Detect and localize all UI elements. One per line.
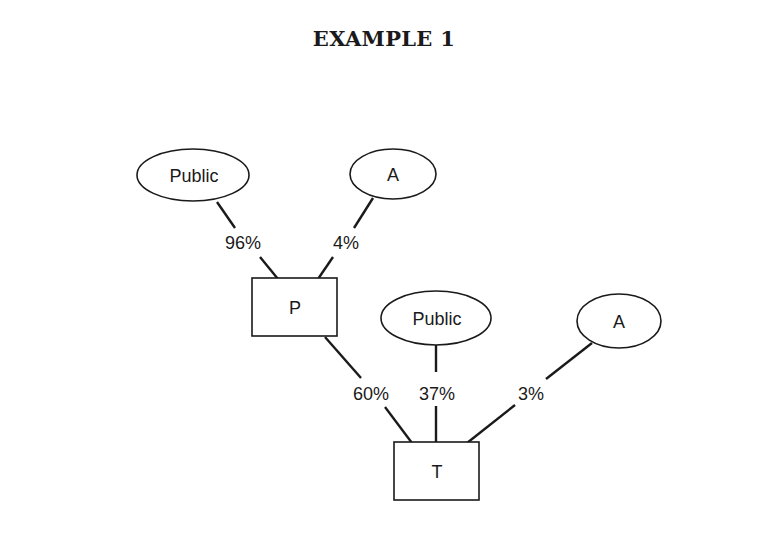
node-label: T (432, 462, 443, 482)
edge-label-4: 4% (333, 233, 359, 253)
node-label: Public (169, 166, 218, 186)
edge-a-bottom-to-t: 3% (467, 343, 592, 443)
edge-a-top-to-p: 4% (318, 198, 373, 279)
node-p: P (252, 278, 337, 336)
node-public-bottom: Public (381, 291, 491, 345)
node-label: P (289, 298, 301, 318)
edge-label-96: 96% (225, 233, 261, 253)
edge-p-to-t: 60% (325, 337, 412, 443)
edge-public-top-to-p: 96% (217, 202, 278, 279)
node-a-bottom: A (577, 294, 661, 348)
node-t: T (394, 442, 479, 500)
node-label: Public (412, 309, 461, 329)
ownership-diagram: 96% 4% 60% 37% 3% Public A P Pub (0, 0, 768, 537)
edge-public-bottom-to-t: 37% (419, 345, 455, 443)
node-a-top: A (350, 149, 436, 199)
edge-label-37: 37% (419, 384, 455, 404)
edge-label-3: 3% (518, 384, 544, 404)
edge-label-60: 60% (353, 384, 389, 404)
node-label: A (613, 312, 625, 332)
node-public-top: Public (137, 149, 249, 201)
node-label: A (387, 165, 399, 185)
